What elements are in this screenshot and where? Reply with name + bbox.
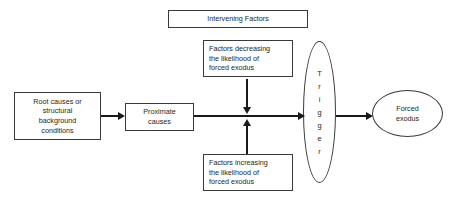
arrow-proximate-causes-to-trigger bbox=[194, 115, 298, 118]
intervening-factors-label: Intervening Factors bbox=[169, 14, 307, 24]
trigger-letter: r bbox=[318, 80, 320, 93]
trigger-letter: T bbox=[317, 67, 322, 80]
arrow-root-causes-to-proximate-causes bbox=[101, 115, 118, 118]
arrow-head-icon bbox=[243, 119, 251, 126]
forced-exodus-label: Forced exodus bbox=[396, 104, 419, 123]
proximate-causes-label: Proximate causes bbox=[126, 107, 193, 126]
factors-decreasing-label: Factors decreasing the likelihood of for… bbox=[204, 44, 292, 73]
arrow-trigger-to-forced-exodus bbox=[336, 115, 366, 118]
trigger-letter: e bbox=[317, 132, 321, 145]
arrow-factors-increasing-to-flow bbox=[246, 126, 249, 154]
arrow-head-icon bbox=[298, 112, 305, 120]
arrow-head-icon bbox=[366, 112, 373, 120]
trigger-label: Trigger bbox=[317, 67, 322, 158]
trigger-letter: r bbox=[318, 145, 320, 158]
arrow-head-icon bbox=[118, 112, 125, 120]
trigger-letter: g bbox=[317, 119, 321, 132]
factors-decreasing-box: Factors decreasing the likelihood of for… bbox=[203, 40, 293, 77]
arrow-factors-decreasing-to-flow bbox=[246, 79, 249, 107]
forced-exodus-ellipse: Forced exodus bbox=[372, 90, 443, 137]
proximate-causes-box: Proximate causes bbox=[125, 103, 194, 131]
flow-diagram: Intervening Factors Root causes or struc… bbox=[0, 0, 456, 199]
factors-increasing-label: Factors increasing the likelihood of for… bbox=[204, 158, 292, 187]
trigger-ellipse: Trigger bbox=[303, 41, 336, 183]
intervening-factors-title-box: Intervening Factors bbox=[168, 10, 308, 28]
arrow-head-icon bbox=[243, 107, 251, 114]
root-causes-box: Root causes or structural background con… bbox=[14, 92, 101, 140]
root-causes-label: Root causes or structural background con… bbox=[15, 97, 100, 135]
trigger-letter: i bbox=[319, 93, 321, 106]
trigger-letter: g bbox=[317, 106, 321, 119]
factors-increasing-box: Factors increasing the likelihood of for… bbox=[203, 154, 293, 191]
